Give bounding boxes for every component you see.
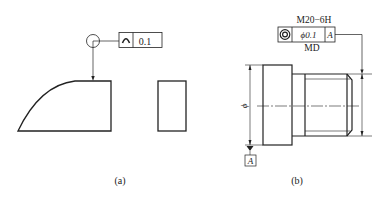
thread-label: M20−6H bbox=[297, 15, 332, 25]
leader-b bbox=[335, 35, 362, 73]
flange bbox=[263, 65, 292, 145]
caption-a: (a) bbox=[114, 175, 125, 187]
datum-label: A bbox=[247, 156, 254, 166]
concentricity-icon bbox=[280, 30, 290, 40]
datum-reference-b: A bbox=[326, 30, 333, 40]
figure-a bbox=[18, 33, 186, 132]
side-view-rect bbox=[158, 81, 186, 131]
leader-b-arrowhead bbox=[360, 70, 363, 75]
tolerance-value-a: 0.1 bbox=[139, 36, 152, 47]
drawing-canvas: 0.1 (a) bbox=[0, 0, 385, 198]
datum-triangle-icon bbox=[247, 146, 254, 151]
caption-b: (b) bbox=[291, 175, 303, 187]
tolerance-value-b: ϕ0.1 bbox=[301, 30, 317, 40]
profile-part-shape bbox=[18, 81, 111, 131]
diameter-label: ϕ bbox=[239, 103, 249, 108]
threaded-body bbox=[292, 74, 352, 136]
profile-of-a-line-icon bbox=[123, 39, 130, 43]
leader-arrowhead bbox=[91, 76, 94, 81]
modifier-md: MD bbox=[304, 43, 319, 53]
